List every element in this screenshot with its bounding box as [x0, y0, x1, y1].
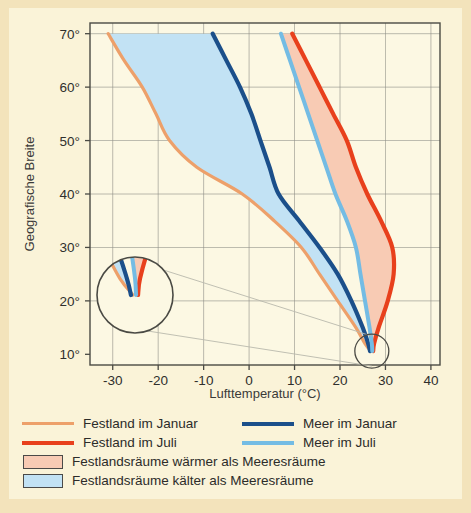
x-axis-label: Lufttemperatur (°C) — [209, 386, 320, 401]
legend-label: Festlandsräume kälter als Meeresräume — [72, 473, 314, 488]
legend-label: Festlandsräume wärmer als Meeresräume — [72, 454, 326, 469]
y-tick-label: 50° — [60, 134, 80, 149]
figure-root: -30-20-10010203040 70°60°50°40°30°20°10°… — [0, 0, 471, 513]
y-tick-label: 60° — [60, 80, 80, 95]
legend-item-festland-januar: Festland im Januar — [22, 416, 198, 431]
legend-swatch-box — [23, 474, 63, 488]
legend-swatch-line — [22, 441, 74, 445]
y-tick-label: 70° — [60, 27, 80, 42]
y-tick-label: 10° — [60, 347, 80, 362]
x-tick-label: -20 — [148, 373, 168, 388]
chart-legend: Festland im Januar Festland im Juli Meer… — [22, 416, 452, 492]
legend-item-meer-juli: Meer im Juli — [242, 435, 376, 450]
legend-swatch-box — [23, 455, 63, 469]
y-tick-label: 20° — [60, 294, 80, 309]
legend-item-band-waermer: Festlandsräume wärmer als Meeresräume — [22, 454, 326, 469]
legend-label: Meer im Juli — [303, 435, 376, 450]
legend-swatch-line — [22, 422, 74, 425]
x-tick-label: -30 — [103, 373, 123, 388]
y-tick-label: 40° — [60, 187, 80, 202]
legend-item-festland-juli: Festland im Juli — [22, 435, 177, 450]
legend-label: Meer im Januar — [303, 416, 397, 431]
x-tick-label: 30 — [378, 373, 393, 388]
y-tick-label: 30° — [60, 240, 80, 255]
legend-swatch-line — [242, 422, 294, 426]
legend-label: Festland im Juli — [83, 435, 177, 450]
legend-item-band-kaelter: Festlandsräume kälter als Meeresräume — [22, 473, 314, 488]
legend-label: Festland im Januar — [83, 416, 198, 431]
y-axis-label: Geografische Breite — [22, 137, 37, 252]
x-tick-label: 20 — [332, 373, 347, 388]
x-tick-label: 40 — [423, 373, 438, 388]
y-tick-labels: 70°60°50°40°30°20°10° — [60, 27, 80, 363]
legend-swatch-line — [242, 441, 294, 445]
legend-item-meer-januar: Meer im Januar — [242, 416, 397, 431]
